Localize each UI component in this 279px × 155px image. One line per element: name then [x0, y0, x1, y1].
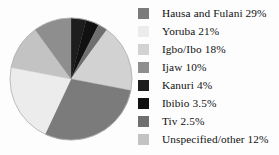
- legend-swatch-tiv: [138, 116, 149, 127]
- pie-slices: [10, 18, 132, 140]
- legend-label-ibibio: Ibibio 3.5%: [162, 97, 216, 110]
- legend-item-unspecified-other[interactable]: Unspecified/other 12%: [136, 130, 279, 148]
- legend-swatch-yoruba: [138, 26, 149, 37]
- legend-item-tiv[interactable]: Tiv 2.5%: [136, 112, 279, 130]
- legend-item-kanuri[interactable]: Kanuri 4%: [136, 76, 279, 94]
- legend-item-ibibio[interactable]: Ibibio 3.5%: [136, 94, 279, 112]
- legend-swatch-unspecified-other: [138, 134, 149, 145]
- legend-item-igbo-ibo[interactable]: Igbo/Ibo 18%: [136, 40, 279, 58]
- legend-swatch-kanuri: [138, 80, 149, 91]
- legend-label-ijaw: Ijaw 10%: [162, 61, 206, 74]
- legend-label-hausa-and-fulani: Hausa and Fulani 29%: [162, 7, 267, 20]
- pie-chart-graphic: [8, 14, 136, 144]
- legend-label-yoruba: Yoruba 21%: [162, 25, 219, 38]
- legend-swatch-ijaw: [138, 62, 149, 73]
- legend-swatch-hausa-and-fulani: [138, 8, 149, 19]
- legend-swatch-ibibio: [138, 98, 149, 109]
- legend-label-kanuri: Kanuri 4%: [162, 79, 212, 92]
- legend-item-hausa-and-fulani[interactable]: Hausa and Fulani 29%: [136, 4, 279, 22]
- legend: Hausa and Fulani 29%Yoruba 21%Igbo/Ibo 1…: [136, 4, 279, 154]
- legend-label-igbo-ibo: Igbo/Ibo 18%: [162, 43, 226, 56]
- pie-svg: [8, 14, 136, 144]
- legend-label-unspecified-other: Unspecified/other 12%: [162, 133, 269, 146]
- legend-item-ijaw[interactable]: Ijaw 10%: [136, 58, 279, 76]
- pie-chart-figure: Hausa and Fulani 29%Yoruba 21%Igbo/Ibo 1…: [0, 0, 279, 155]
- legend-label-tiv: Tiv 2.5%: [162, 115, 204, 128]
- legend-item-yoruba[interactable]: Yoruba 21%: [136, 22, 279, 40]
- legend-swatch-igbo-ibo: [138, 44, 149, 55]
